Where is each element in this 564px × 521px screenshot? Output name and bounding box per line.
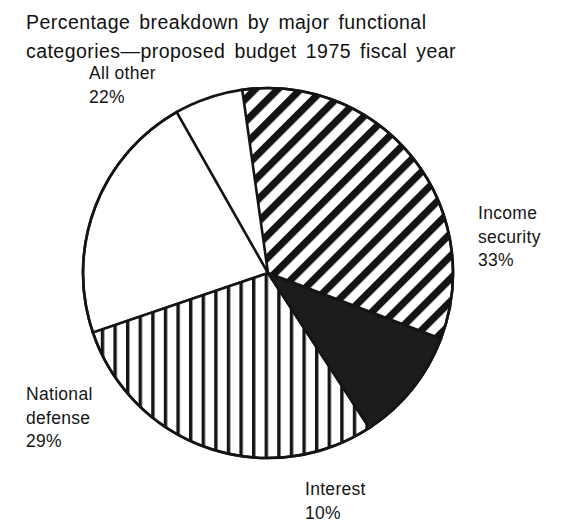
pie-label-national-defense-name-1: National (26, 383, 93, 407)
pie-label-interest-name: Interest (305, 478, 366, 502)
pie-label-interest-value: 10% (305, 502, 366, 521)
pie-label-interest: Interest 10% (305, 478, 366, 521)
pie-label-national-defense-name-2: defense (26, 407, 93, 431)
pie-label-national-defense-value: 29% (26, 430, 93, 454)
pie-label-income-security-value: 33% (478, 249, 541, 273)
pie-label-national-defense: National defense 29% (26, 383, 93, 454)
pie-chart-figure: Percentage breakdown by major functional… (0, 0, 564, 521)
pie-label-all-other-value: 22% (89, 86, 156, 110)
pie-label-income-security: Income security 33% (478, 202, 541, 273)
pie-label-all-other-name: All other (89, 62, 156, 86)
pie-label-all-other: All other 22% (89, 62, 156, 109)
pie-label-income-security-name-2: security (478, 226, 541, 250)
pie-label-income-security-name-1: Income (478, 202, 541, 226)
